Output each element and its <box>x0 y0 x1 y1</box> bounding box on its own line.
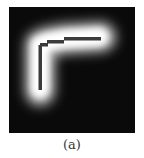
blurred-l-shape-image <box>9 7 135 133</box>
figure-panel <box>9 7 135 133</box>
figure-caption: (a) <box>0 136 144 154</box>
